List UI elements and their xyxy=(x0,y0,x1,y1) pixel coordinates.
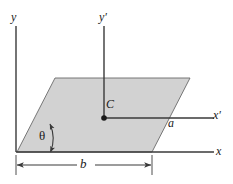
figure-canvas: y y′ x′ x C a b θ xyxy=(0,0,233,184)
diagram-svg xyxy=(0,0,233,184)
x-prime-axis-label: x′ xyxy=(213,109,221,121)
y-prime-axis-label: y′ xyxy=(99,11,107,23)
angle-theta-label: θ xyxy=(39,129,45,142)
centroid-label: C xyxy=(106,98,114,110)
side-a-label: a xyxy=(168,117,174,129)
x-axis-label: x xyxy=(216,145,221,157)
centroid-dot xyxy=(101,115,107,121)
y-axis-label: y xyxy=(11,11,16,23)
base-b-label: b xyxy=(80,157,87,170)
